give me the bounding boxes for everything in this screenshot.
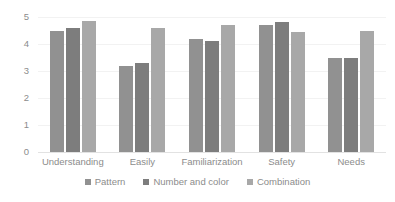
- bar: [82, 21, 96, 152]
- bar-group: [328, 17, 374, 152]
- y-axis-tick-label: 5: [24, 12, 29, 22]
- legend-label: Pattern: [95, 177, 126, 187]
- bar: [66, 28, 80, 152]
- bar: [328, 58, 342, 153]
- x-axis-category-label: Easily: [130, 157, 155, 167]
- y-axis-tick-label: 3: [24, 66, 29, 76]
- bar: [221, 25, 235, 152]
- x-axis-category-label: Safety: [268, 157, 295, 167]
- bar-group: [259, 17, 305, 152]
- x-axis-category-label: Understanding: [42, 157, 104, 167]
- bar: [275, 22, 289, 152]
- bar-group: [119, 17, 165, 152]
- plot-area: [38, 17, 386, 152]
- bar: [205, 41, 219, 152]
- x-axis-category-label: Familiarization: [181, 157, 242, 167]
- bar: [151, 28, 165, 152]
- legend-swatch-icon: [143, 179, 149, 185]
- y-axis-tick-label: 4: [24, 39, 29, 49]
- chart-legend: PatternNumber and colorCombination: [0, 177, 395, 187]
- y-axis-tick-label: 0: [24, 147, 29, 157]
- legend-item[interactable]: Number and color: [143, 177, 229, 187]
- legend-item[interactable]: Combination: [247, 177, 310, 187]
- bar-chart: 012345 UnderstandingEasilyFamiliarizatio…: [0, 0, 395, 202]
- bar: [344, 58, 358, 153]
- bar: [119, 66, 133, 152]
- bar-group: [189, 17, 235, 152]
- legend-swatch-icon: [247, 179, 253, 185]
- y-axis: 012345: [0, 0, 38, 169]
- bar: [259, 25, 273, 152]
- legend-swatch-icon: [85, 179, 91, 185]
- legend-label: Number and color: [153, 177, 229, 187]
- bar: [135, 63, 149, 152]
- bar: [291, 32, 305, 152]
- bar-group: [50, 17, 96, 152]
- y-axis-tick-label: 1: [24, 120, 29, 130]
- legend-item[interactable]: Pattern: [85, 177, 126, 187]
- legend-label: Combination: [257, 177, 310, 187]
- bar: [189, 39, 203, 152]
- y-axis-tick-label: 2: [24, 93, 29, 103]
- x-axis-category-label: Needs: [337, 157, 364, 167]
- bar: [50, 31, 64, 153]
- axis-baseline: [38, 152, 386, 153]
- bar: [360, 31, 374, 153]
